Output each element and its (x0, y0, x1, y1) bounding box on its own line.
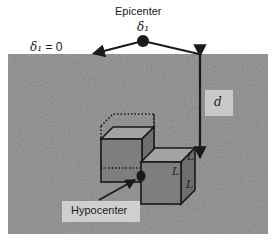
hypocenter-label: Hypocenter (71, 204, 127, 216)
epicenter-label: Epicenter (115, 5, 161, 17)
cube-edge-label-side: L (186, 178, 193, 191)
cube-edge-label-top: L (187, 150, 194, 163)
cube-edge-label-front: L (172, 165, 179, 178)
delta-zero-label: δ₁ = 0 (30, 40, 62, 54)
depth-label-box: d (205, 90, 233, 116)
delta-zero-value: = 0 (42, 40, 62, 54)
hypocenter-label-box: Hypocenter (62, 201, 140, 222)
depth-label: d (214, 95, 222, 109)
epicenter-dot (137, 35, 149, 47)
hypocenter-dot (137, 171, 146, 182)
delta-symbol: δ₁ (30, 40, 42, 54)
epicenter-delta-label: δ₁ (137, 20, 149, 34)
